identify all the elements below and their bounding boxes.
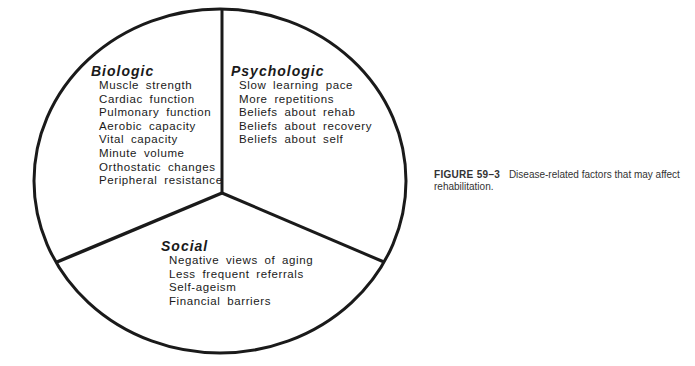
figure-caption: FIGURE 59–3 Disease-related factors that… bbox=[434, 169, 694, 193]
list-item: Less frequent referrals bbox=[169, 268, 313, 282]
list-item: Beliefs about rehab bbox=[239, 106, 372, 120]
list-item: Muscle strength bbox=[99, 79, 223, 93]
sector-list: Negative views of aging Less frequent re… bbox=[161, 254, 313, 308]
list-item: Beliefs about recovery bbox=[239, 120, 372, 134]
sector-psychologic: Psychologic Slow learning pace More repe… bbox=[231, 63, 372, 147]
list-item: Cardiac function bbox=[99, 93, 223, 107]
figure-label: FIGURE 59–3 bbox=[434, 169, 500, 180]
list-item: Beliefs about self bbox=[239, 133, 372, 147]
sector-biologic: Biologic Muscle strength Cardiac functio… bbox=[91, 63, 223, 188]
list-item: Peripheral resistance bbox=[99, 174, 223, 188]
list-item: Pulmonary function bbox=[99, 106, 223, 120]
sector-title: Biologic bbox=[91, 63, 223, 79]
sector-list: Slow learning pace More repetitions Beli… bbox=[231, 79, 372, 147]
list-item: Orthostatic changes bbox=[99, 161, 223, 175]
list-item: Slow learning pace bbox=[239, 79, 372, 93]
sector-title: Psychologic bbox=[231, 63, 372, 79]
list-item: Vital capacity bbox=[99, 133, 223, 147]
sector-title: Social bbox=[161, 238, 313, 254]
list-item: Minute volume bbox=[99, 147, 223, 161]
sector-list: Muscle strength Cardiac function Pulmona… bbox=[91, 79, 223, 188]
list-item: Aerobic capacity bbox=[99, 120, 223, 134]
sector-social: Social Negative views of aging Less freq… bbox=[161, 238, 313, 308]
list-item: More repetitions bbox=[239, 93, 372, 107]
list-item: Financial barriers bbox=[169, 295, 313, 309]
list-item: Self-ageism bbox=[169, 281, 313, 295]
list-item: Negative views of aging bbox=[169, 254, 313, 268]
